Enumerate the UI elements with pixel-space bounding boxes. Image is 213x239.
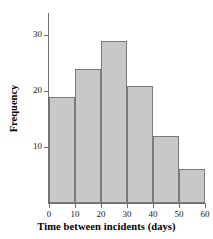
x-tick-mark <box>205 204 206 208</box>
plot-area <box>49 13 205 203</box>
x-tick-mark <box>49 204 50 208</box>
x-tick-mark <box>153 204 154 208</box>
histogram-bar-30-40 <box>127 86 153 203</box>
histogram-bar-10-20 <box>75 69 101 203</box>
histogram-figure: 102030 0102030405060 Frequency Time betw… <box>0 0 213 239</box>
y-tick-mark <box>44 147 48 148</box>
y-axis-title: Frequency <box>8 59 19 159</box>
histogram-bar-0-10 <box>49 97 75 203</box>
x-tick-label: 50 <box>169 209 189 219</box>
x-tick-label: 0 <box>39 209 59 219</box>
y-tick-label: 20 <box>22 86 42 95</box>
x-tick-mark <box>75 204 76 208</box>
histogram-bar-40-50 <box>153 136 179 203</box>
y-tick-mark <box>44 91 48 92</box>
histogram-bar-50-60 <box>179 169 205 203</box>
x-tick-mark <box>101 204 102 208</box>
x-tick-label: 60 <box>195 209 213 219</box>
y-tick-label: 10 <box>22 142 42 151</box>
histogram-bar-20-30 <box>101 41 127 203</box>
x-tick-label: 20 <box>91 209 111 219</box>
x-tick-label: 30 <box>117 209 137 219</box>
y-tick-mark <box>44 35 48 36</box>
x-tick-label: 10 <box>65 209 85 219</box>
x-tick-mark <box>179 204 180 208</box>
y-tick-label: 30 <box>22 30 42 39</box>
x-tick-mark <box>127 204 128 208</box>
x-tick-label: 40 <box>143 209 163 219</box>
x-axis-title: Time between incidents (days) <box>0 221 213 232</box>
